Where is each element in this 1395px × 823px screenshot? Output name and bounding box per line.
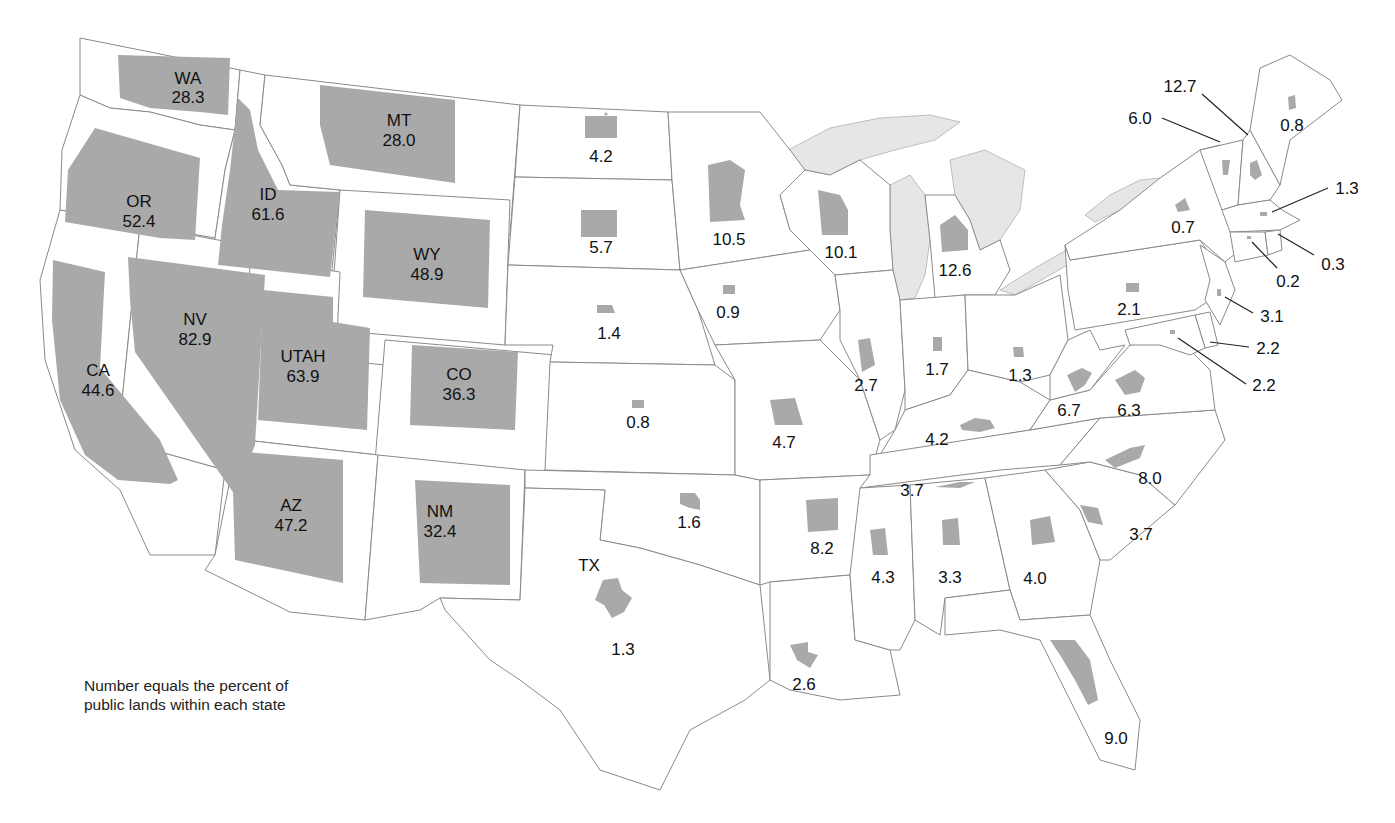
label-tx-abbr: TX bbox=[578, 556, 600, 575]
leader-ma bbox=[1272, 188, 1328, 212]
label-ms-value: 4.3 bbox=[871, 568, 895, 587]
label-sc-value: 3.7 bbox=[1129, 525, 1153, 544]
ia-public-land bbox=[723, 285, 735, 294]
label-nm-value: 32.4 bbox=[423, 522, 456, 541]
ma-public-land bbox=[1260, 212, 1267, 216]
legend-note-line2: public lands within each state bbox=[84, 695, 288, 714]
label-nc-value: 8.0 bbox=[1138, 469, 1162, 488]
leader-nj bbox=[1225, 297, 1253, 313]
ks-public-land bbox=[632, 400, 644, 408]
label-or-abbr: OR bbox=[126, 192, 152, 211]
label-az-value: 47.2 bbox=[274, 516, 307, 535]
label-ne-value: 1.4 bbox=[597, 324, 621, 343]
sd-public-land bbox=[581, 210, 617, 237]
label-wv-value: 6.7 bbox=[1057, 401, 1081, 420]
label-ct-value: 0.2 bbox=[1276, 272, 1300, 291]
leader-vt bbox=[1162, 118, 1220, 142]
nd-public-land bbox=[585, 116, 617, 138]
label-tx-value: 1.3 bbox=[611, 640, 635, 659]
label-mo-value: 4.7 bbox=[772, 433, 796, 452]
label-co-abbr: CO bbox=[446, 365, 472, 384]
label-pa-value: 2.1 bbox=[1117, 300, 1141, 319]
label-tn-value: 3.7 bbox=[900, 481, 924, 500]
label-ga-value: 4.0 bbox=[1023, 569, 1047, 588]
label-ut-value: 63.9 bbox=[286, 367, 319, 386]
leader-ri bbox=[1278, 234, 1314, 255]
label-ky-value: 4.2 bbox=[925, 430, 949, 449]
map-legend-note: Number equals the percent of public land… bbox=[84, 676, 288, 714]
label-la-value: 2.6 bbox=[792, 675, 816, 694]
ms-public-land bbox=[870, 528, 888, 555]
state-ri[interactable] bbox=[1265, 230, 1282, 255]
label-id-value: 61.6 bbox=[251, 205, 284, 224]
label-ar-value: 8.2 bbox=[810, 539, 834, 558]
label-nv-abbr: NV bbox=[183, 310, 207, 329]
label-mt-value: 28.0 bbox=[382, 131, 415, 150]
label-co-value: 36.3 bbox=[442, 385, 475, 404]
mn-public-land bbox=[708, 160, 745, 222]
oh-public-land bbox=[1013, 347, 1024, 357]
nd-dot bbox=[604, 112, 607, 115]
lake-superior bbox=[788, 115, 960, 175]
label-md-value: 2.2 bbox=[1252, 376, 1276, 395]
nj-public-land bbox=[1217, 289, 1221, 296]
label-wy-abbr: WY bbox=[413, 245, 440, 264]
label-wa-value: 28.3 bbox=[171, 88, 204, 107]
label-in-value: 1.7 bbox=[925, 360, 949, 379]
label-mn-value: 10.5 bbox=[712, 230, 745, 249]
label-nm-abbr: NM bbox=[427, 502, 453, 521]
label-sd-value: 5.7 bbox=[589, 238, 613, 257]
label-ca-value: 44.6 bbox=[81, 381, 114, 400]
in-public-land bbox=[933, 337, 942, 351]
label-ut-abbr: UTAH bbox=[280, 347, 325, 366]
label-or-value: 52.4 bbox=[122, 212, 155, 231]
ar-public-land bbox=[806, 498, 838, 532]
label-wi-value: 10.1 bbox=[824, 243, 857, 262]
label-vt-value: 6.0 bbox=[1128, 109, 1152, 128]
label-oh-value: 1.3 bbox=[1008, 366, 1032, 385]
label-mt-abbr: MT bbox=[387, 111, 412, 130]
label-il-value: 2.7 bbox=[854, 376, 878, 395]
label-mi-value: 12.6 bbox=[938, 261, 971, 280]
label-de-value: 2.2 bbox=[1256, 339, 1280, 358]
pa-public-land bbox=[1126, 283, 1139, 292]
label-ks-value: 0.8 bbox=[626, 413, 650, 432]
ct-public-land bbox=[1247, 236, 1251, 239]
label-ny-value: 0.7 bbox=[1171, 218, 1195, 237]
label-nv-value: 82.9 bbox=[178, 330, 211, 349]
label-id-abbr: ID bbox=[260, 185, 277, 204]
label-va-value: 6.3 bbox=[1117, 401, 1141, 420]
label-fl-value: 9.0 bbox=[1104, 729, 1128, 748]
label-ma-value: 1.3 bbox=[1335, 179, 1359, 198]
leader-nh bbox=[1202, 94, 1248, 135]
label-az-abbr: AZ bbox=[280, 496, 302, 515]
state-ne[interactable] bbox=[505, 265, 715, 365]
ne-public-land bbox=[597, 305, 615, 313]
label-wa-abbr: WA bbox=[175, 69, 202, 88]
label-nj-value: 3.1 bbox=[1260, 307, 1284, 326]
label-al-value: 3.3 bbox=[938, 568, 962, 587]
label-ia-value: 0.9 bbox=[716, 303, 740, 322]
label-nd-value: 4.2 bbox=[589, 147, 613, 166]
label-me-value: 0.8 bbox=[1280, 116, 1304, 135]
legend-note-line1: Number equals the percent of bbox=[84, 676, 288, 695]
md-public-land bbox=[1170, 330, 1175, 334]
label-ca-abbr: CA bbox=[86, 361, 110, 380]
label-wy-value: 48.9 bbox=[410, 265, 443, 284]
label-nh-value: 12.7 bbox=[1163, 77, 1196, 96]
al-public-land bbox=[942, 518, 960, 545]
me-public-land bbox=[1288, 95, 1296, 110]
label-ok-value: 1.6 bbox=[677, 513, 701, 532]
label-ri-value: 0.3 bbox=[1321, 255, 1345, 274]
